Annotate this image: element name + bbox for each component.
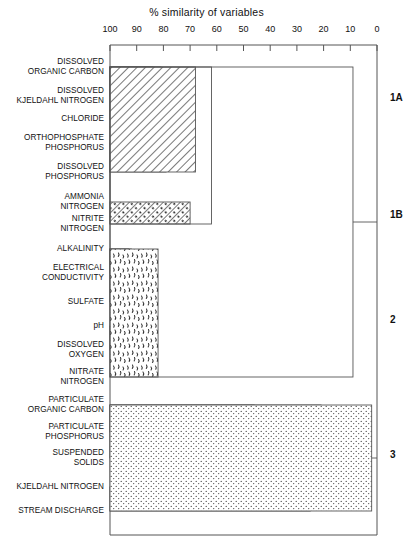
merge-ammonia-nitrite-1b	[110, 202, 190, 224]
merge-cluster-1a	[110, 67, 195, 172]
dendrogram-plot	[0, 0, 413, 549]
dendrogram-figure: % similarity of variables 10090807060504…	[0, 0, 413, 549]
merge-cluster-2	[110, 249, 158, 377]
merge-cluster-3	[110, 405, 372, 511]
